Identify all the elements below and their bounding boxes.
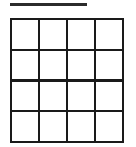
grid-cell[interactable] — [96, 112, 122, 140]
four-by-four-grid — [10, 18, 124, 143]
grid-cell[interactable] — [68, 82, 94, 110]
grid-cell[interactable] — [12, 51, 38, 79]
grid-cell[interactable] — [96, 51, 122, 79]
grid-cell[interactable] — [40, 51, 66, 79]
grid-cell[interactable] — [12, 112, 38, 140]
grid-cell[interactable] — [68, 51, 94, 79]
figure-root — [0, 0, 136, 147]
grid-cell[interactable] — [12, 82, 38, 110]
grid-cell[interactable] — [12, 20, 38, 48]
grid-cell[interactable] — [40, 82, 66, 110]
top-horizontal-rule — [10, 3, 87, 6]
grid-cell[interactable] — [40, 20, 66, 48]
grid-cell[interactable] — [96, 20, 122, 48]
grid-cell[interactable] — [68, 20, 94, 48]
grid-cell[interactable] — [96, 82, 122, 110]
grid-cell[interactable] — [40, 112, 66, 140]
grid-cell[interactable] — [68, 112, 94, 140]
